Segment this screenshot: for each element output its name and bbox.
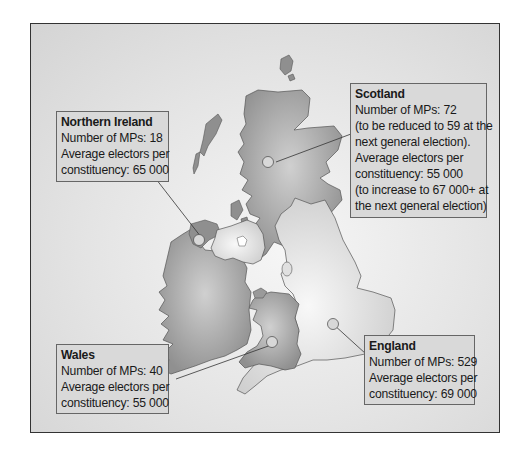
shetland-shape xyxy=(280,55,293,75)
wales-label-box: Wales Number of MPs: 40 Average electors… xyxy=(56,344,169,414)
england-line: Average electors per xyxy=(369,370,470,386)
wales-line: constituency: 55 000 xyxy=(61,395,164,411)
northern-ireland-line: Average electors per xyxy=(61,146,164,162)
marker-england xyxy=(328,319,339,330)
northern-ireland-line: constituency: 65 000 xyxy=(61,162,164,178)
england-title: England xyxy=(369,338,470,354)
scotland-line: constituency: 55 000 xyxy=(355,166,482,182)
scotland-line: (to increase to 67 000+ at xyxy=(355,182,482,198)
marker-wales xyxy=(267,337,278,348)
scotland-line: Number of MPs: 72 xyxy=(355,102,482,118)
england-line: constituency: 69 000 xyxy=(369,386,470,402)
northern-ireland-line: Number of MPs: 18 xyxy=(61,130,164,146)
scotland-line: Average electors per xyxy=(355,150,482,166)
wales-line: Average electors per xyxy=(61,379,164,395)
scotland-label-box: Scotland Number of MPs: 72 (to be reduce… xyxy=(350,83,487,218)
leader-ni xyxy=(156,179,201,237)
map-frame: Northern Ireland Number of MPs: 18 Avera… xyxy=(30,23,500,433)
scotland-title: Scotland xyxy=(355,86,482,102)
england-label-box: England Number of MPs: 529 Average elect… xyxy=(364,335,475,405)
northern-ireland-title: Northern Ireland xyxy=(61,114,164,130)
england-line: Number of MPs: 529 xyxy=(369,354,470,370)
marker-scotland xyxy=(263,157,274,168)
scotland-line: next general election). xyxy=(355,134,482,150)
isle-of-man-shape xyxy=(282,262,292,276)
scotland-line: the next general election) xyxy=(355,198,482,214)
scotland-line: (to be reduced to 59 at the xyxy=(355,118,482,134)
wales-title: Wales xyxy=(61,347,164,363)
hebrides-shape xyxy=(200,114,222,156)
northern-ireland-label-box: Northern Ireland Number of MPs: 18 Avera… xyxy=(56,111,169,182)
marker-northern-ireland xyxy=(194,235,205,246)
wales-line: Number of MPs: 40 xyxy=(61,363,164,379)
